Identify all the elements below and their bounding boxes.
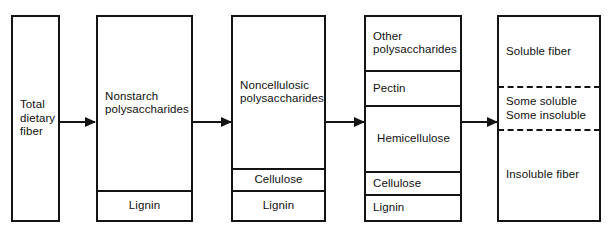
cell-noncellulosic-polysaccharides: Noncellulosic polysaccharides	[233, 17, 324, 168]
diagram-canvas: Total dietary fiber Nonstarch polysaccha…	[0, 0, 611, 234]
cell-label: Total dietary fiber	[20, 98, 55, 139]
cell-label: Soluble fiber	[506, 45, 571, 59]
cell-total-dietary-fiber: Total dietary fiber	[13, 17, 58, 220]
arrow-4	[462, 121, 497, 123]
cell-label: Insoluble fiber	[506, 168, 579, 182]
box-nonstarch-polysaccharides: Nonstarch polysaccharides Lignin	[96, 15, 193, 222]
box-solubility-classification: Soluble fiber Some soluble Some insolubl…	[497, 15, 601, 222]
box-fiber-components: Other polysaccharides Pectin Hemicellulo…	[364, 15, 462, 222]
arrow-2	[193, 121, 231, 123]
box-noncellulosic-polysaccharides: Noncellulosic polysaccharides Cellulose …	[231, 15, 326, 222]
cell-label: Some soluble Some insoluble	[506, 95, 586, 122]
cell-label: Pectin	[373, 82, 406, 96]
cell-soluble-fiber: Soluble fiber	[499, 17, 599, 87]
cell-lignin: Lignin	[233, 190, 324, 220]
cell-label: Lignin	[263, 199, 294, 213]
cell-other-polysaccharides: Other polysaccharides	[366, 17, 460, 70]
cell-lignin: Lignin	[98, 190, 191, 220]
cell-label: Lignin	[129, 199, 160, 213]
cell-cellulose: Cellulose	[366, 171, 460, 195]
cell-cellulose: Cellulose	[233, 168, 324, 190]
cell-label: Cellulose	[254, 173, 302, 187]
cell-hemicellulose: Hemicellulose	[366, 105, 460, 171]
cell-label: Hemicellulose	[377, 132, 450, 146]
arrow-3	[326, 121, 364, 123]
cell-nonstarch-polysaccharides: Nonstarch polysaccharides	[98, 17, 191, 190]
cell-lignin: Lignin	[366, 194, 460, 220]
cell-label: Cellulose	[373, 177, 421, 191]
cell-label: Other polysaccharides	[373, 30, 457, 57]
cell-label: Noncellulosic polysaccharides	[240, 79, 324, 106]
cell-some-soluble-some-insoluble: Some soluble Some insoluble	[499, 87, 599, 130]
box-total-dietary-fiber: Total dietary fiber	[11, 15, 60, 222]
cell-label: Nonstarch polysaccharides	[105, 90, 189, 117]
arrow-1	[60, 121, 95, 123]
cell-insoluble-fiber: Insoluble fiber	[499, 130, 599, 220]
cell-pectin: Pectin	[366, 70, 460, 105]
cell-label: Lignin	[373, 201, 404, 215]
